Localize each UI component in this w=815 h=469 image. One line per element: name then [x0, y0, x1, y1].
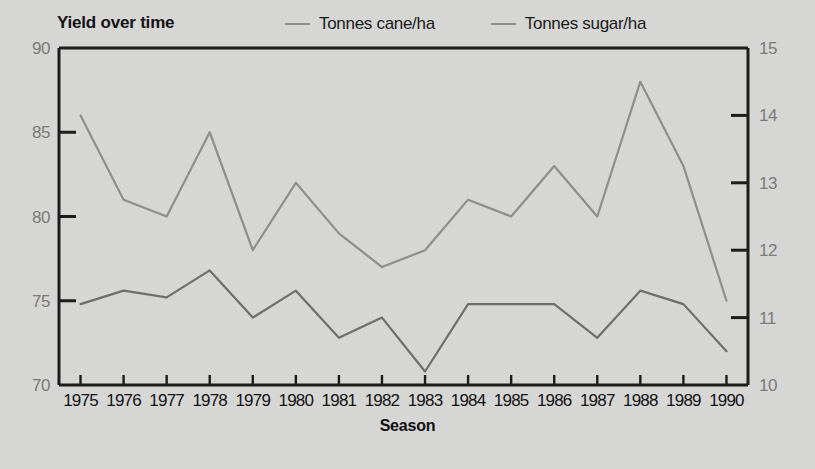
x-axis-tick-label: 1978: [192, 391, 227, 410]
x-axis-tick-label: 1987: [580, 391, 615, 410]
x-axis-tick-label: 1976: [106, 391, 141, 410]
x-axis-tick-label: 1979: [235, 391, 270, 410]
right-axis-tick-label: 12: [759, 241, 777, 260]
x-axis-title: Season: [0, 417, 815, 435]
x-axis-tick-label: 1985: [494, 391, 529, 410]
plot-svg: 7075808590 101112131415 1975197619771978…: [0, 0, 815, 469]
series-lines: [81, 82, 727, 372]
x-axis-tick-label: 1988: [623, 391, 658, 410]
right-axis-tick-label: 14: [759, 106, 777, 125]
right-axis-tick-label: 10: [759, 376, 777, 395]
left-axis-tick-label: 90: [32, 39, 50, 58]
x-axis-tick-label: 1983: [408, 391, 443, 410]
left-axis-tick-label: 80: [32, 208, 50, 227]
x-axis-tick-label: 1984: [451, 391, 486, 410]
axis-frame: [59, 48, 748, 385]
series-line: [81, 82, 727, 301]
x-axis-tick-label: 1975: [63, 391, 98, 410]
x-axis-tick-label: 1977: [149, 391, 184, 410]
left-axis-tick-label: 70: [32, 376, 50, 395]
right-axis-tick-label: 11: [759, 309, 776, 328]
x-axis-tick-label: 1981: [322, 391, 357, 410]
right-axis-tick-label: 13: [759, 174, 777, 193]
x-axis-tick-label: 1980: [279, 391, 314, 410]
left-axis-tick-label: 85: [32, 123, 50, 142]
x-axis-tick-label: 1986: [537, 391, 572, 410]
left-axis-tick-label: 75: [32, 292, 50, 311]
series-line: [81, 270, 727, 371]
x-axis-tick-label: 1990: [709, 391, 744, 410]
plot-area: 7075808590 101112131415 1975197619771978…: [0, 0, 815, 469]
x-axis-tick-label: 1982: [365, 391, 400, 410]
x-axis-tick-label: 1989: [666, 391, 701, 410]
chart-figure: Yield over time Tonnes cane/ha Tonnes su…: [0, 0, 815, 469]
left-axis-tick-labels: 7075808590: [32, 39, 50, 395]
x-axis-tick-labels: 1975197619771978197919801981198219831984…: [63, 391, 744, 410]
right-axis-tick-label: 15: [759, 39, 777, 58]
right-axis-tick-labels: 101112131415: [759, 39, 777, 395]
